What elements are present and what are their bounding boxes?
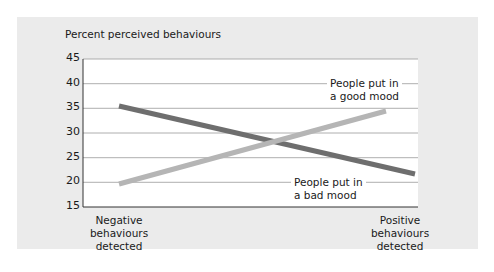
y-tick: 15 bbox=[56, 199, 80, 212]
y-tick: 40 bbox=[56, 76, 80, 89]
x-category-positive: Positivebehavioursdetected bbox=[355, 214, 445, 253]
label-good-mood: People put ina good mood bbox=[327, 77, 402, 103]
y-tick: 30 bbox=[56, 125, 80, 138]
y-tick: 35 bbox=[56, 100, 80, 113]
y-tick: 25 bbox=[56, 150, 80, 163]
y-tick: 20 bbox=[56, 174, 80, 187]
y-tick: 45 bbox=[56, 51, 80, 64]
label-bad-mood: People put ina bad mood bbox=[291, 176, 366, 202]
x-category-negative: Negativebehavioursdetected bbox=[74, 214, 164, 253]
